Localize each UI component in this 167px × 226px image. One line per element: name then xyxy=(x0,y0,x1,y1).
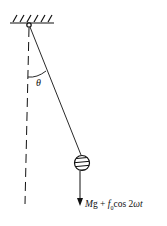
pendulum-diagram xyxy=(0,0,167,226)
force-arrow xyxy=(77,171,83,206)
force-label: Mg + f0cos 2ωt xyxy=(85,199,143,211)
angle-theta-label: θ xyxy=(36,77,41,88)
pendulum-bob xyxy=(72,156,92,172)
pivot xyxy=(27,23,31,27)
ceiling-support xyxy=(10,15,54,23)
vertical-dashed-line xyxy=(25,28,29,204)
pendulum-string xyxy=(30,27,81,155)
